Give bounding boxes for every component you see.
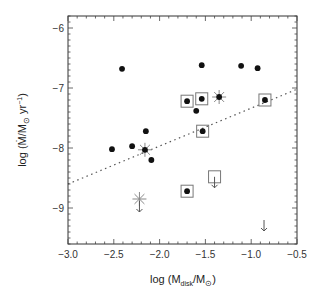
data-point (255, 65, 261, 71)
series-star-circle (138, 90, 226, 157)
data-point (142, 147, 148, 153)
fit-line (68, 89, 297, 184)
y-tick-label: −9 (53, 203, 65, 214)
x-axis-title: log (Mdisk/M⊙) (150, 273, 216, 288)
y-tick-label: −7 (53, 83, 65, 94)
data-point (129, 143, 135, 149)
data-point (199, 96, 205, 102)
series-arrow (261, 220, 267, 231)
x-tick-label: −0.5 (287, 249, 307, 260)
series-star-arrow (132, 192, 146, 212)
data-point (200, 128, 206, 134)
data-point (184, 188, 190, 194)
plot-area (68, 62, 297, 231)
plot-frame (68, 16, 297, 244)
data-point (216, 94, 222, 100)
data-point (119, 66, 125, 72)
y-tick-label: −6 (53, 23, 65, 34)
series-filled-circle (109, 62, 260, 163)
data-point (184, 98, 190, 104)
x-tick-label: −2.0 (150, 249, 170, 260)
data-point (199, 62, 205, 68)
data-point (143, 128, 149, 134)
x-tick-label: −1.0 (241, 249, 261, 260)
x-tick-label: −1.5 (196, 249, 216, 260)
scatter-chart: −3.0−2.5−2.0−1.5−1.0−0.5−6−7−8−9 log (Md… (0, 0, 319, 304)
x-tick-label: −2.5 (104, 249, 124, 260)
y-axis-title: log (Ṁ/M⊙ yr−1) (16, 93, 31, 167)
y-tick-label: −8 (53, 143, 65, 154)
data-point (262, 97, 268, 103)
x-tick-label: −3.0 (58, 249, 78, 260)
data-point (148, 157, 154, 163)
series-box-arrow (209, 171, 221, 188)
data-point (109, 146, 115, 152)
data-point (238, 63, 244, 69)
data-point (193, 108, 199, 114)
